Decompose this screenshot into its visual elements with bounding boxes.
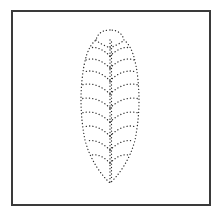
dotted-leaf-drawing: [0, 0, 221, 216]
